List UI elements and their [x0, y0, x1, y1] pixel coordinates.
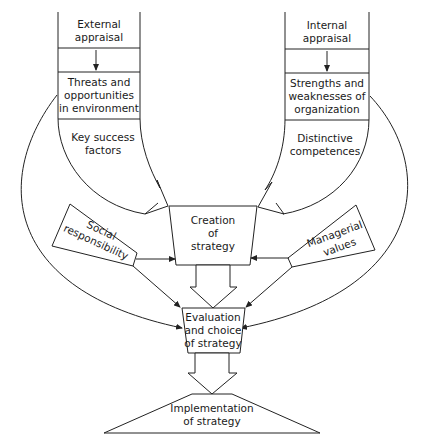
- managerial-to-evaluation-arrow: [246, 267, 292, 307]
- strategy-diagram: Externalappraisal Threats andopportuniti…: [0, 0, 423, 445]
- evaluation-label: Evaluationand choiceof strategy: [184, 311, 241, 349]
- strengths-to-evaluation-arrow: [241, 96, 408, 328]
- managerial-values-box: Managerialvalues: [288, 205, 375, 267]
- left-column-inner-edge: [140, 12, 168, 214]
- social-to-evaluation-arrow: [133, 266, 180, 307]
- external-appraisal-label: Externalappraisal: [75, 18, 123, 43]
- distinctive-competences-label: Distinctivecompetences: [290, 132, 361, 157]
- external-appraisal-column: Externalappraisal Threats andopportuniti…: [58, 12, 168, 214]
- key-success-factors-label: Key successfactors: [71, 131, 134, 156]
- social-responsibility-box: Socialresponsibility: [52, 204, 137, 266]
- threats-opportunities-label: Threats andopportunitiesin environment: [59, 76, 139, 114]
- internal-appraisal-column: Internalappraisal Strengths andweaknesse…: [258, 12, 369, 214]
- threats-to-evaluation-arrow: [21, 95, 182, 328]
- implementation-of-strategy-box: Implementationof strategy: [104, 394, 320, 433]
- evaluation-and-choice-box: Evaluationand choiceof strategy: [182, 308, 245, 353]
- creation-of-strategy-box: Creationofstrategy: [169, 206, 257, 265]
- internal-appraisal-label: Internalappraisal: [303, 19, 351, 44]
- creation-to-evaluation-block-arrow: [190, 265, 237, 308]
- right-column-inner-edge: [258, 12, 285, 214]
- strengths-weaknesses-label: Strengths andweaknesses oforganization: [288, 77, 365, 115]
- evaluation-to-implementation-block-arrow: [188, 353, 237, 394]
